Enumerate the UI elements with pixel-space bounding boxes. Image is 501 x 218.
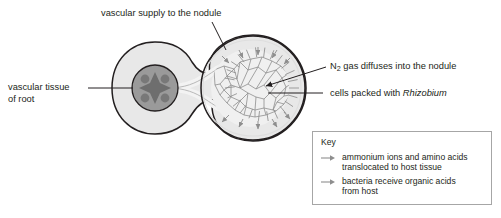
key-legend-box: Key ammonium ions and amino acids transl… (312, 131, 492, 205)
right-arrow-icon (321, 177, 336, 187)
key-entry-organic-acids-line2: from host (342, 186, 497, 196)
diagram-canvas: vascular supply to the nodule vascular t… (0, 0, 501, 218)
label-vascular-tissue: vascular tissue of root (8, 82, 70, 105)
phloem-dot-icon (161, 94, 170, 103)
right-arrow-icon (321, 153, 336, 163)
label-vascular-supply: vascular supply to the nodule (101, 8, 221, 20)
label-rhizobium-cells: cells packed with Rhizobium (330, 88, 447, 100)
label-n2-diffusion: N2 gas diffuses into the nodule (330, 61, 456, 74)
key-entry-ammonium-line2: translocated to host tissue (342, 162, 497, 172)
key-entry-organic-acids-text: bacteria receive organic acids from host (342, 176, 497, 197)
label-rhizobium-prefix: cells packed with (330, 88, 403, 98)
phloem-dot-icon (141, 75, 150, 84)
phloem-dot-icon (141, 94, 150, 103)
label-n2-prefix: N (330, 61, 337, 71)
key-entry-organic-acids-line1: bacteria receive organic acids (342, 176, 497, 186)
label-n2-suffix: gas diffuses into the nodule (341, 61, 457, 71)
phloem-dot-icon (161, 75, 170, 84)
key-entry-ammonium-line1: ammonium ions and amino acids (342, 152, 497, 162)
label-vascular-tissue-line2: of root (8, 94, 70, 106)
label-vascular-tissue-line1: vascular tissue (8, 82, 70, 94)
root-cross-section (132, 65, 178, 111)
label-rhizobium-genus: Rhizobium (403, 88, 447, 98)
leader-vascular-supply (212, 22, 226, 50)
key-entry-ammonium-text: ammonium ions and amino acids translocat… (342, 152, 497, 173)
key-title: Key (321, 137, 336, 147)
